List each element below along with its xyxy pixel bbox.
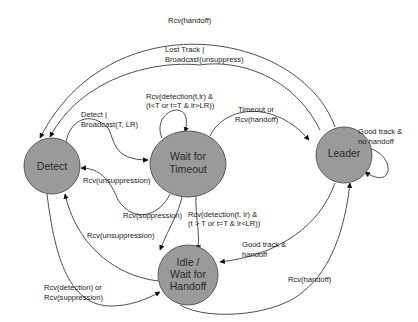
label-wait-detect: Rcv(unsuppression): [83, 176, 151, 185]
label-wait-self-2: (t<T or t=T & lr>LR)): [146, 101, 215, 110]
label-leader-self-1: Good track &: [358, 127, 402, 136]
state-detect-label: Detect: [37, 160, 67, 172]
label-detect-wait-1: Detect |: [81, 110, 107, 119]
state-leader-label: Leader: [328, 147, 361, 159]
label-detect-idle-1: Rcv(detection) or: [44, 283, 102, 292]
label-detect-wait-2: Broadcast(T, LR): [81, 120, 138, 129]
label-leader-detect-handoff: Rcv(handoff): [168, 16, 212, 25]
label-leader-idle-2: handoff: [242, 250, 268, 259]
label-wait-leader-2: Rcv(handoff): [235, 115, 279, 124]
label-idle-self-1: Rcv(detection(t, lr) &: [188, 210, 257, 219]
state-idle-label-3: Handoff: [170, 280, 207, 292]
state-idle-wait-for-handoff: Idle / Wait for Handoff: [158, 245, 218, 305]
label-detect-idle-2: Rcv(suppression): [44, 293, 104, 302]
state-wait-label-2: Timeout: [169, 163, 207, 175]
state-wait-label-1: Wait for: [170, 150, 206, 162]
label-leader-idle-1: Good track &: [242, 240, 286, 249]
label-wait-idle: Rcv(suppression): [123, 211, 183, 220]
label-idle-self-2: (t > T or t=T & lr<LR)): [188, 219, 261, 228]
label-idle-detect: Rcv(unsuppression): [87, 231, 155, 240]
label-leader-self-2: no handoff: [358, 137, 395, 146]
label-wait-leader-1: Timeout or: [238, 105, 274, 114]
state-wait-for-timeout: Wait for Timeout: [150, 131, 226, 197]
state-idle-label-2: Wait for: [170, 268, 206, 280]
label-wait-self-1: Rcv(detection(t,lr) &: [146, 92, 213, 101]
label-idle-leader: Rcv(handoff): [288, 275, 332, 284]
label-lost-track-1: Lost Track |: [165, 45, 204, 54]
state-idle-label-1: Idle /: [177, 256, 200, 268]
edge-wait-to-idle: [160, 197, 182, 250]
state-detect: Detect: [24, 138, 80, 194]
label-lost-track-2: Broadcast(unsuppress): [165, 55, 244, 64]
state-diagram: Detect Wait for Timeout Leader Idle / Wa…: [0, 0, 418, 322]
